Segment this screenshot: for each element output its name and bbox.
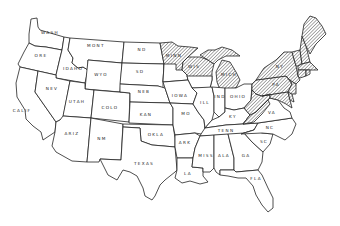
us-states-map: WASH ORE CALIF IDAHO NEV MONT WYO UTAH A… <box>0 0 340 226</box>
label-mo: MO <box>181 111 191 116</box>
label-tx: TEXAS <box>133 161 154 166</box>
label-mt: MONT <box>87 43 105 48</box>
label-ok: OKLA <box>148 132 165 137</box>
label-ks: KAN <box>140 112 153 117</box>
label-sd: SD <box>136 69 144 74</box>
state-ri <box>306 70 310 76</box>
label-pa: PA <box>272 82 280 87</box>
label-nd: ND <box>138 47 147 52</box>
label-ky: KY <box>229 114 237 119</box>
label-oh: OHIO <box>230 94 246 99</box>
label-az: ARIZ <box>64 131 79 136</box>
label-wi: WIS <box>188 64 200 69</box>
label-nc: NC <box>266 125 275 130</box>
label-ga: GA <box>242 153 251 158</box>
label-co: COLO <box>102 105 119 110</box>
label-wy: WYO <box>94 72 108 77</box>
label-sc: SC <box>260 139 268 144</box>
label-nm: NM <box>97 136 106 141</box>
label-tn: TENN <box>217 128 235 133</box>
label-ca: CALIF <box>13 108 31 113</box>
label-ne: NEB <box>138 89 151 94</box>
state-ct <box>298 70 306 78</box>
state-in <box>212 87 225 117</box>
label-ms: MISS <box>198 153 213 158</box>
label-il: ILL <box>200 100 210 105</box>
label-or: ORE <box>35 53 48 58</box>
label-ut: UTAH <box>69 99 86 104</box>
label-mi: MICH <box>221 72 237 77</box>
label-va: VA <box>268 110 276 115</box>
label-fl: FLA <box>250 176 262 181</box>
label-wa: WASH <box>41 30 59 35</box>
label-in: IND <box>214 94 226 99</box>
label-la: LA <box>184 171 192 176</box>
label-nv: NEV <box>46 86 59 91</box>
label-al: ALA <box>218 153 230 158</box>
state-nd <box>122 42 164 64</box>
state-az <box>52 116 91 162</box>
label-ny: NY <box>276 64 284 69</box>
label-mn: MINN <box>166 53 182 58</box>
state-fl <box>220 170 273 212</box>
label-ia: IOWA <box>172 93 189 98</box>
label-ar: ARK <box>179 140 191 145</box>
label-id: IDAHO <box>63 66 83 71</box>
